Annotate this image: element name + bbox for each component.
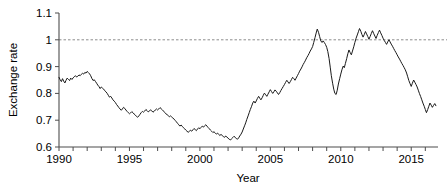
x-tick-labels-group: 199019952000200520102015 [46, 153, 424, 165]
x-axis-title: Year [236, 172, 259, 184]
y-tick-label: 0.6 [36, 141, 52, 153]
y-axis-title: Exchange rate [7, 43, 19, 117]
exchange-rate-line-chart: 0.60.70.80.911.1 19901995200020052010201… [0, 0, 448, 189]
y-tick-label: 1 [46, 34, 52, 46]
x-tickmarks-group [59, 147, 425, 151]
x-tick-label: 2010 [328, 153, 354, 165]
x-tick-label: 1990 [46, 153, 72, 165]
x-tick-label: 2005 [258, 153, 284, 165]
y-tick-label: 0.9 [36, 61, 52, 73]
y-tick-labels-group: 0.60.70.80.911.1 [36, 7, 52, 153]
series-exchange-rate [59, 29, 436, 140]
x-tick-label: 2015 [398, 153, 424, 165]
y-tick-label: 0.7 [36, 114, 52, 126]
chart-figure: 0.60.70.80.911.1 19901995200020052010201… [0, 0, 448, 189]
x-tick-label: 2000 [187, 153, 213, 165]
x-tick-label: 1995 [117, 153, 143, 165]
data-series-group [59, 29, 436, 140]
y-tickmarks-group [55, 13, 59, 147]
y-tick-label: 1.1 [36, 7, 52, 19]
y-tick-label: 0.8 [36, 87, 52, 99]
